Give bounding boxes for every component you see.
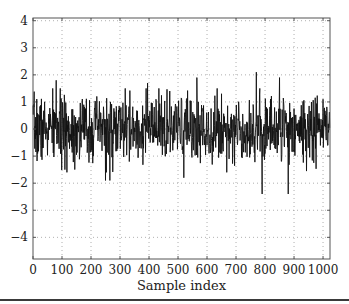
- y-tick-label: −4: [10, 230, 28, 244]
- x-axis-label: Sample index: [137, 278, 227, 293]
- signal-line: [33, 72, 330, 194]
- x-tick-label: 700: [225, 263, 248, 277]
- bottom-divider: [0, 299, 349, 301]
- x-tick-label: 1000: [308, 263, 339, 277]
- x-tick-label: 900: [283, 263, 306, 277]
- y-tick-label: −3: [10, 203, 28, 217]
- y-tick-label: 4: [20, 14, 28, 28]
- y-tick-label: 1: [20, 95, 28, 109]
- x-tick-label: 600: [196, 263, 219, 277]
- y-tick-label: −2: [10, 176, 28, 190]
- x-tick-label: 400: [138, 263, 161, 277]
- y-tick-label: −1: [10, 149, 28, 163]
- x-tick-label: 800: [254, 263, 277, 277]
- time-series-chart: 43210−1−2−3−4 01002003004005006007008009…: [0, 0, 349, 304]
- signal-polyline: [33, 72, 330, 194]
- x-tick-label: 0: [29, 263, 37, 277]
- x-tick-label: 100: [51, 263, 74, 277]
- x-tick-label: 200: [80, 263, 103, 277]
- x-tick-label: 500: [167, 263, 190, 277]
- y-tick-label: 3: [20, 41, 28, 55]
- y-tick-label: 0: [20, 122, 28, 136]
- x-tick-label: 300: [109, 263, 132, 277]
- y-tick-label: 2: [20, 68, 28, 82]
